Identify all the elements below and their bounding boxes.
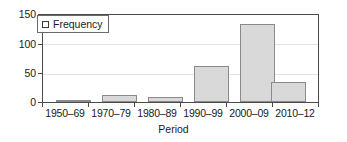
x-tick-mark-3 [180,103,181,107]
y-tick-label-0: 0 [4,97,36,107]
x-axis-title: Period [0,124,347,135]
x-tick-label-1990-99: 1990–99 [178,108,228,119]
x-tick-mark-0 [42,103,43,107]
x-tick-label-2010-12: 2010–12 [270,108,320,119]
legend-label: Frequency [53,19,103,30]
bar-1950-69 [56,100,91,102]
x-tick-mark-5 [272,103,273,107]
square-outline-icon [42,21,49,28]
legend: Frequency [37,15,109,33]
x-tick-label-1980-89: 1980–89 [132,108,182,119]
x-tick-label-1970-79: 1970–79 [86,108,136,119]
y-tick-label-100: 100 [4,39,36,49]
x-tick-mark-4 [226,103,227,107]
x-tick-mark-2 [134,103,135,107]
bar-1970-79 [102,95,137,102]
y-tick-label-150: 150 [4,9,36,19]
bar-2010-12 [271,82,306,102]
x-tick-mark-1 [88,103,89,107]
x-tick-label-1950-69: 1950–69 [40,108,90,119]
frequency-bar-chart: 150 100 50 0 Frequency [0,0,347,142]
x-tick-mark-6 [318,103,319,107]
y-tick-label-50: 50 [4,68,36,78]
bar-1990-99 [194,66,229,102]
bar-2000-09 [240,24,275,102]
bar-1980-89 [148,97,183,102]
x-tick-label-2000-09: 2000–09 [224,108,274,119]
